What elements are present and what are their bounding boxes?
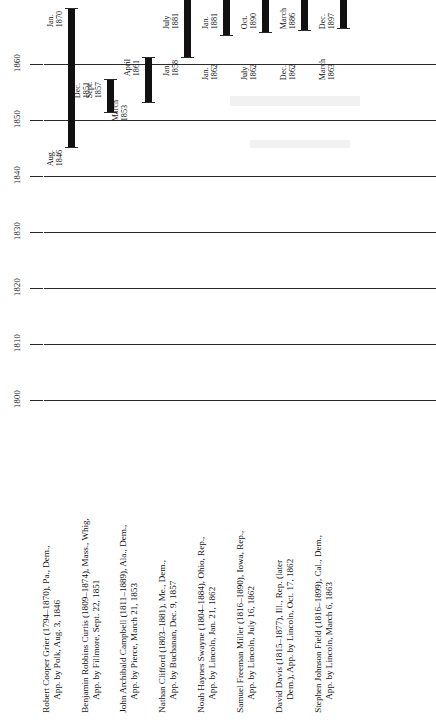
date-label-grier-start: Aug. 1846 [47, 150, 64, 166]
axis-label-1850: 1850 [12, 102, 22, 136]
bar-cap-field-start [337, 28, 350, 29]
tick-1820 [30, 288, 43, 289]
justice-line-2: App. by Pierce, March 21, 1853 [130, 525, 141, 713]
date-year: 1881 [210, 13, 219, 29]
justice-line-1: Robert Cooper Grier (1794–1870), Pa., De… [41, 546, 52, 713]
bar-campbell [145, 57, 152, 102]
date-year: 1897 [327, 13, 336, 29]
justice-line-1: Samuel Freeman Miller (1816–1890), Iowa,… [235, 531, 246, 713]
bar-davis [301, 0, 308, 30]
date-year: 1862 [210, 64, 219, 80]
date-label-swayne-end: Jan. 1881 [202, 13, 219, 29]
date-label-davis-end: March 1886 [280, 8, 297, 29]
justice-line-1: David Davis (1815–1877), Ill., Rep. (lat… [274, 559, 285, 713]
justice-label-grier: Robert Cooper Grier (1794–1870), Pa., De… [41, 546, 64, 713]
bar-cap-curtis-end [104, 79, 117, 80]
date-year: 1890 [249, 13, 258, 29]
date-year: 1881 [171, 13, 180, 29]
justice-line-2: App. by Lincoln, March 6, 1863 [325, 535, 336, 713]
justice-line-2: Dem.), App. by Lincoln, Oct. 17, 1862 [286, 559, 297, 713]
date-year: 1886 [288, 8, 297, 29]
date-label-clifford-start: Jan. 1858 [163, 60, 180, 76]
justice-line-1: Nathan Clifford (1803–1881), Me., Dem., [157, 560, 168, 713]
date-label-grier-end: Jan. 1870 [47, 11, 64, 27]
tick-1850 [30, 120, 43, 121]
date-label-clifford-end: July 1881 [163, 13, 180, 29]
gridline-1810 [44, 344, 436, 345]
tick-1840 [30, 176, 43, 177]
date-year: 1862 [249, 64, 258, 80]
gridline-1850 [44, 120, 436, 121]
axis-label-1820: 1820 [12, 270, 22, 304]
bar-cap-campbell-end [142, 57, 155, 58]
gridline-1840 [44, 176, 436, 177]
axis-label-1860: 1860 [12, 46, 22, 80]
justice-label-field: Stephen Johnson Field (1816–1899), Cal.,… [313, 535, 336, 713]
date-label-campbell-end: April 1861 [124, 59, 141, 76]
justice-label-davis: David Davis (1815–1877), Ill., Rep. (lat… [274, 559, 297, 713]
bar-grier [68, 8, 75, 147]
axis-label-1840: 1840 [12, 158, 22, 192]
date-year: 1846 [55, 150, 64, 166]
date-year: 1862 [288, 64, 297, 80]
gridline-1800 [44, 400, 436, 401]
date-label-davis-start: Dec. 1862 [280, 64, 297, 80]
date-label-miller-start: July 1862 [241, 64, 258, 80]
tick-1810 [30, 344, 43, 345]
bar-clifford [184, 0, 191, 57]
date-year: 1853 [120, 100, 129, 121]
bar-cap-campbell-start [142, 102, 155, 103]
tick-1830 [30, 232, 43, 233]
bar-cap-grier-end [65, 8, 78, 9]
justice-label-curtis: Benjamin Robbins Curtis (1809–1874), Mas… [80, 518, 103, 713]
bar-cap-miller-start [259, 32, 272, 33]
date-label-swayne-start: Jan. 1862 [202, 64, 219, 80]
bar-cap-clifford-start [181, 57, 194, 58]
bar-cap-davis-start [298, 30, 311, 31]
date-year: 1851 [82, 82, 91, 98]
gridline-1820 [44, 288, 436, 289]
tick-1860 [30, 64, 43, 65]
justice-label-miller: Samuel Freeman Miller (1816–1890), Iowa,… [235, 531, 258, 713]
tick-1800 [30, 400, 43, 401]
justice-line-1: John Archibald Campbell (1811–1889), Ala… [118, 525, 129, 713]
date-label-curtis-start: Dec. 1851 [74, 82, 91, 98]
date-label-field-end: Dec. 1897 [319, 13, 336, 29]
justice-label-clifford: Nathan Clifford (1803–1881), Me., Dem., … [157, 560, 180, 713]
date-year: 1857 [94, 82, 103, 99]
justice-line-1: Noah Haynes Swayne (1804–1884), Ohio, Re… [196, 537, 207, 713]
justice-label-campbell: John Archibald Campbell (1811–1889), Ala… [118, 525, 141, 713]
bar-miller [262, 0, 269, 32]
timeline-figure: 1800 1810 1820 1830 1840 1850 1860 [0, 0, 436, 726]
date-label-miller-end: Oct. 1890 [241, 13, 258, 29]
scan-artifact [250, 140, 350, 148]
justice-line-2: App. by Lincoln, July 16, 1862 [247, 531, 258, 713]
justice-line-1: Benjamin Robbins Curtis (1809–1874), Mas… [80, 518, 91, 713]
date-year: 1858 [171, 60, 180, 76]
page-canvas: 1800 1810 1820 1830 1840 1850 1860 [0, 0, 436, 726]
scan-artifact [230, 96, 360, 106]
axis-label-1830: 1830 [12, 214, 22, 248]
axis-label-1800: 1800 [12, 382, 22, 416]
date-year: 1863 [327, 59, 336, 80]
justice-label-swayne: Noah Haynes Swayne (1804–1884), Ohio, Re… [196, 537, 219, 713]
justice-line-2: App. by Lincoln, Jan. 21, 1862 [208, 537, 219, 713]
date-label-field-start: March 1863 [319, 59, 336, 80]
date-year: 1861 [132, 59, 141, 76]
bar-cap-grier-start [65, 147, 78, 148]
bar-swayne [223, 0, 230, 35]
justice-line-2: App. by Buchanan, Dec. 9, 1857 [169, 560, 180, 713]
justice-line-1: Stephen Johnson Field (1816–1899), Cal.,… [313, 535, 324, 713]
gridline-1830 [44, 232, 436, 233]
axis-label-1810: 1810 [12, 326, 22, 360]
bar-field [340, 0, 347, 28]
bar-cap-swayne-start [220, 35, 233, 36]
date-label-campbell-start: March 1853 [112, 100, 129, 121]
justice-line-2: App. by Fillmore, Sept. 22, 1851 [92, 518, 103, 713]
justice-line-2: App. by Polk, Aug. 3, 1846 [53, 546, 64, 713]
date-year: 1870 [55, 11, 64, 27]
